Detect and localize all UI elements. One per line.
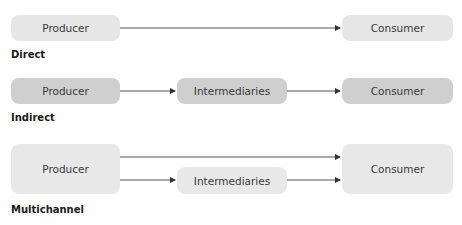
indirect-consumer-label: Consumer	[371, 85, 425, 97]
multichannel-intermediaries-box: Intermediaries	[177, 167, 287, 194]
multichannel-consumer-box: Consumer	[342, 144, 453, 194]
direct-producer-box: Producer	[11, 15, 120, 41]
multichannel-section-label: Multichannel	[11, 204, 84, 215]
indirect-producer-label: Producer	[42, 85, 89, 97]
indirect-intermediaries-box: Intermediaries	[177, 78, 287, 104]
multichannel-producer-box: Producer	[11, 144, 120, 194]
indirect-section-label: Indirect	[11, 112, 55, 123]
indirect-consumer-box: Consumer	[342, 78, 453, 104]
indirect-producer-box: Producer	[11, 78, 120, 104]
direct-consumer-box: Consumer	[342, 15, 453, 41]
multichannel-intermediaries-label: Intermediaries	[194, 175, 270, 187]
direct-consumer-label: Consumer	[371, 22, 425, 34]
multichannel-consumer-label: Consumer	[371, 163, 425, 175]
multichannel-producer-label: Producer	[42, 163, 89, 175]
direct-section-label: Direct	[11, 49, 45, 60]
indirect-intermediaries-label: Intermediaries	[194, 85, 270, 97]
direct-producer-label: Producer	[42, 22, 89, 34]
